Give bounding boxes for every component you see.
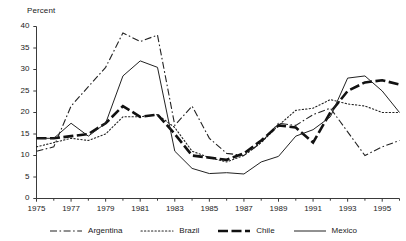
chart-series-group: [37, 33, 400, 174]
y-tick-label: 20: [14, 107, 30, 116]
y-axis-title: Percent: [27, 6, 55, 15]
legend-item-brazil[interactable]: Brazil: [140, 226, 199, 236]
legend-swatch-mexico: [293, 226, 327, 236]
legend-label: Mexico: [332, 226, 357, 235]
legend-item-mexico[interactable]: Mexico: [293, 226, 357, 236]
y-tick-label: 25: [14, 86, 30, 95]
x-tick-label: 1985: [194, 204, 224, 213]
legend-swatch-argentina: [49, 226, 83, 236]
legend-label: Chile: [256, 226, 274, 235]
x-tick-label: 1979: [91, 204, 121, 213]
chart-figure: Percent 0510152025303540 197519771979198…: [0, 0, 406, 241]
y-tick-label: 10: [14, 150, 30, 159]
chart-legend: ArgentinaBrazilChileMexico: [0, 220, 406, 241]
x-tick-label: 1981: [125, 204, 155, 213]
y-tick-label: 35: [14, 43, 30, 52]
x-tick-label: 1983: [160, 204, 190, 213]
x-tick-label: 1995: [367, 204, 397, 213]
x-tick-label: 1987: [229, 204, 259, 213]
x-tick-label: 1993: [333, 204, 363, 213]
series-line-brazil: [37, 100, 400, 162]
legend-swatch-brazil: [140, 226, 174, 236]
series-line-mexico: [37, 61, 400, 174]
legend-item-argentina[interactable]: Argentina: [49, 226, 122, 236]
x-tick-label: 1989: [264, 204, 294, 213]
legend-swatch-chile: [217, 226, 251, 236]
x-tick-label: 1991: [298, 204, 328, 213]
y-tick-label: 5: [14, 172, 30, 181]
legend-label: Brazil: [179, 226, 199, 235]
series-line-chile: [37, 80, 400, 160]
y-tick-label: 40: [14, 21, 30, 30]
x-tick-label: 1975: [22, 204, 52, 213]
chart-tick-marks: [33, 27, 399, 202]
x-tick-label: 1977: [56, 204, 86, 213]
y-tick-label: 0: [14, 193, 30, 202]
y-tick-label: 30: [14, 64, 30, 73]
legend-label: Argentina: [88, 226, 122, 235]
legend-item-chile[interactable]: Chile: [217, 226, 274, 236]
y-tick-label: 15: [14, 129, 30, 138]
